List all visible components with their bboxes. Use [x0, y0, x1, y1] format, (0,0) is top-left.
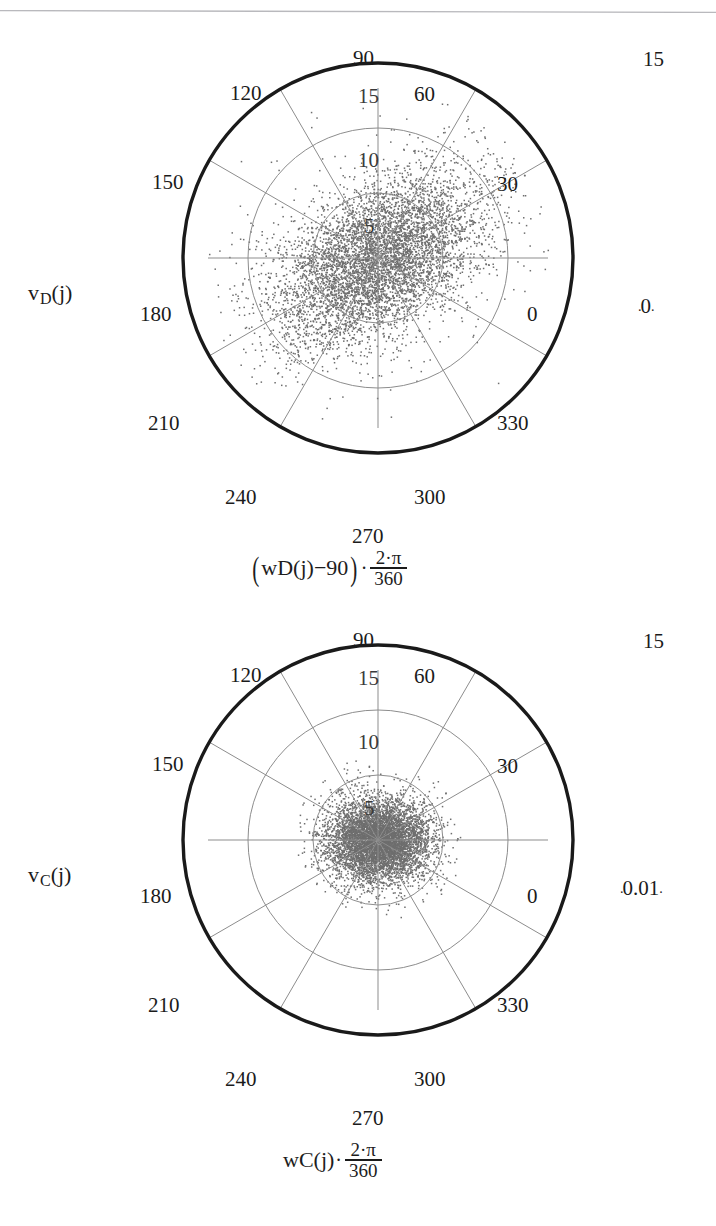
polar-plot-d: 0 30 60 90 120 150 180 210 240 270 300 3… [0, 30, 716, 610]
angle-label-300-d: 300 [414, 485, 446, 510]
polar-frame-c [178, 640, 578, 1040]
radial-max-label-c: 15 [643, 629, 664, 654]
angle-label-330-c: 330 [497, 993, 529, 1018]
radial-min-value-d: 0 [641, 294, 652, 318]
radial-min-label-d: .0. [638, 294, 654, 319]
radial-tick-10-d: 10 [358, 148, 379, 173]
radial-tick-15-d: 15 [358, 84, 379, 109]
angle-label-60-d: 60 [414, 82, 435, 107]
angle-label-180-d: 180 [140, 302, 172, 327]
angle-label-270-c: 270 [352, 1106, 384, 1131]
angle-label-120-c: 120 [230, 663, 262, 688]
x-axis-formula-c: wC(j)· 2·π 360 [283, 1140, 382, 1180]
angle-label-240-c: 240 [225, 1067, 257, 1092]
angle-label-150-d: 150 [152, 170, 184, 195]
radial-tick-15-c: 15 [358, 666, 379, 691]
formula-dot-c: · [334, 1149, 343, 1172]
y-axis-label-d: vD(j) [28, 280, 72, 308]
angle-label-60-c: 60 [414, 664, 435, 689]
y-axis-sub-c: C [39, 872, 51, 889]
polar-frame-d [178, 58, 578, 458]
formula-numerator-c: 2·π [347, 1140, 380, 1159]
y-axis-base-d: v [28, 280, 39, 305]
angle-label-300-c: 300 [414, 1067, 446, 1092]
formula-open-paren-d: ( [252, 555, 259, 582]
formula-fraction-c: 2·π 360 [345, 1140, 382, 1180]
radial-tick-5-c: 5 [364, 796, 375, 821]
radial-min-value-c: 0.01 [623, 876, 660, 900]
formula-close-paren-d: ) [350, 555, 357, 582]
formula-denominator-d: 360 [370, 569, 407, 588]
radial-tick-5-d: 5 [364, 214, 375, 239]
angle-label-150-c: 150 [152, 752, 184, 777]
formula-arg-c: (j) [314, 1147, 335, 1173]
angle-label-30-c: 30 [497, 754, 518, 779]
y-axis-sub-d: D [39, 290, 52, 307]
y-axis-base-c: v [28, 862, 39, 887]
formula-numerator-d: 2·π [372, 548, 405, 567]
angle-label-270-d: 270 [352, 524, 384, 549]
formula-denominator-c: 360 [345, 1161, 382, 1180]
formula-sub-c: C [299, 1147, 314, 1173]
polar-plot-c: 0 30 60 90 120 150 180 210 240 270 300 3… [0, 612, 716, 1212]
angle-label-90-c: 90 [353, 628, 374, 653]
angle-label-210-c: 210 [148, 993, 180, 1018]
radial-max-label-d: 15 [643, 47, 664, 72]
angle-label-120-d: 120 [230, 81, 262, 106]
formula-fraction-d: 2·π 360 [370, 548, 407, 588]
page-top-rule [0, 10, 716, 13]
formula-base-d: w [261, 555, 277, 581]
angle-label-240-d: 240 [225, 485, 257, 510]
y-axis-label-c: vC(j) [28, 862, 71, 890]
y-axis-arg-c: (j) [51, 862, 72, 887]
angle-label-30-d: 30 [497, 172, 518, 197]
angle-label-0-d: 0 [527, 302, 538, 327]
angle-label-90-d: 90 [353, 46, 374, 71]
angle-label-210-d: 210 [148, 411, 180, 436]
formula-base-c: w [283, 1147, 299, 1173]
angle-label-180-c: 180 [140, 884, 172, 909]
radial-min-label-c: .0.01. [620, 876, 662, 901]
angle-label-0-c: 0 [527, 884, 538, 909]
formula-offset-d: −90 [314, 555, 348, 581]
x-axis-formula-d: (wD(j)−90)· 2·π 360 [250, 548, 407, 588]
radial-tick-10-c: 10 [358, 730, 379, 755]
formula-dot-d: · [360, 557, 369, 580]
formula-sub-d: D [277, 555, 293, 581]
angle-label-330-d: 330 [497, 411, 529, 436]
y-axis-arg-d: (j) [52, 280, 73, 305]
formula-arg-d: (j) [293, 555, 314, 581]
